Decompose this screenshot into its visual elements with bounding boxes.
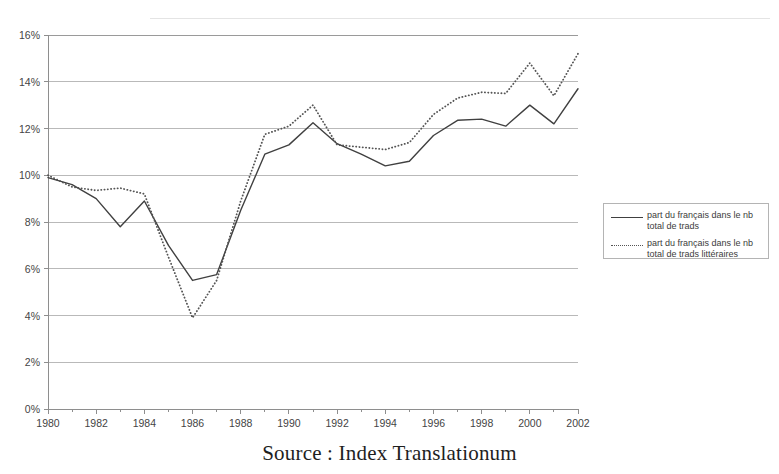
x-axis-tick-label: 1992 — [314, 418, 360, 429]
x-axis-tick-label: 1994 — [362, 418, 408, 429]
chart-legend: part du français dans le nb total de tra… — [603, 203, 769, 259]
x-axis-tick-label: 1984 — [121, 418, 167, 429]
x-axis-tick-label: 1998 — [459, 418, 505, 429]
y-axis-tick-label: 16% — [0, 30, 40, 40]
series-lines — [48, 54, 578, 318]
y-axis-tick-label: 0% — [0, 404, 40, 414]
x-axis-tick-label: 1982 — [73, 418, 119, 429]
y-axis-tick-label: 14% — [0, 77, 40, 87]
legend-item-trads-litteraires: part du français dans le nb total de tra… — [610, 238, 764, 259]
x-axis-tick-label: 1996 — [410, 418, 456, 429]
legend-dotted-line-icon — [610, 241, 644, 251]
x-axis-tick-label: 2002 — [555, 418, 601, 429]
y-axis-tick-label: 8% — [0, 217, 40, 227]
figure-caption: Source : Index Translationum — [0, 441, 779, 466]
x-axis-tick-label: 2000 — [507, 418, 553, 429]
legend-solid-line-icon — [610, 213, 644, 223]
y-axis-tick-label: 6% — [0, 264, 40, 274]
y-axis-tick-label: 12% — [0, 124, 40, 134]
x-axis-tick-label: 1990 — [266, 418, 312, 429]
chart-svg — [0, 0, 600, 440]
y-axis-tick-label: 10% — [0, 170, 40, 180]
chart-plot-area: 0%2%4%6%8%10%12%14%16% 19801982198419861… — [0, 0, 600, 440]
legend-item-label: part du français dans le nb total de tra… — [644, 238, 764, 259]
xtick-marks — [48, 409, 578, 414]
y-axis-tick-label: 2% — [0, 357, 40, 367]
x-axis-tick-label: 1988 — [218, 418, 264, 429]
gridlines — [48, 35, 578, 409]
x-axis-tick-label: 1986 — [170, 418, 216, 429]
x-axis-tick-label: 1980 — [25, 418, 71, 429]
legend-item-label: part du français dans le nb total de tra… — [644, 210, 764, 231]
legend-item-total-trads: part du français dans le nb total de tra… — [610, 210, 764, 231]
y-axis-tick-label: 4% — [0, 311, 40, 321]
figure: 0%2%4%6%8%10%12%14%16% 19801982198419861… — [0, 0, 779, 474]
